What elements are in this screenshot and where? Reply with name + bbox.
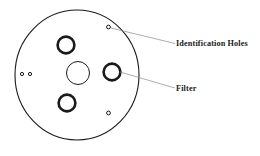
filter-disc-diagram: Identification Holes Filter bbox=[0, 0, 260, 156]
id-hole-bottom bbox=[107, 111, 111, 115]
diagram-canvas: Identification Holes Filter bbox=[0, 0, 260, 156]
filter-right bbox=[104, 64, 121, 81]
center-bore bbox=[67, 62, 90, 85]
leader-identification-holes bbox=[111, 28, 175, 44]
id-hole-top bbox=[107, 25, 111, 29]
label-filter: Filter bbox=[176, 84, 197, 93]
id-hole-left-outer bbox=[20, 72, 23, 75]
leader-filter bbox=[120, 72, 175, 88]
id-hole-left-inner bbox=[28, 72, 31, 75]
filter-upper-left bbox=[58, 37, 75, 54]
filter-lower-left bbox=[59, 95, 76, 112]
label-identification-holes: Identification Holes bbox=[176, 39, 248, 48]
